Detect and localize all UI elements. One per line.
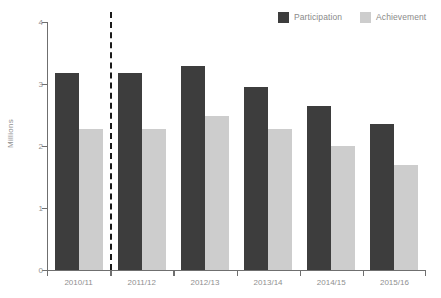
bar-participation-2012-13 <box>181 66 205 270</box>
x-tick-label-2015-16: 2015/16 <box>380 278 409 287</box>
bar-participation-2013-14 <box>244 87 268 270</box>
y-axis-line <box>47 22 48 270</box>
x-tick-mark <box>425 270 426 276</box>
x-tick-mark <box>47 270 48 276</box>
bar-achievement-2015-16 <box>394 165 418 270</box>
y-axis-title: Millions <box>6 119 15 148</box>
x-tick-mark <box>300 270 301 276</box>
bar-participation-2014-15 <box>307 106 331 270</box>
x-tick-label-2010-11: 2010/11 <box>64 278 92 287</box>
bar-participation-2010-11 <box>55 73 79 270</box>
y-tick-label: 4 <box>39 18 43 27</box>
y-tick-label: 0 <box>39 266 43 275</box>
bar-achievement-2014-15 <box>331 146 355 270</box>
bar-participation-2011-12 <box>118 73 142 270</box>
plot-area: 01234 2010/112011/122012/132013/142014/1… <box>47 22 426 270</box>
bar-achievement-2010-11 <box>79 129 103 270</box>
x-tick-label-2014-15: 2014/15 <box>317 278 346 287</box>
bar-achievement-2013-14 <box>268 129 292 270</box>
y-tick-label: 2 <box>39 142 43 151</box>
bar-achievement-2012-13 <box>205 116 229 270</box>
x-tick-mark <box>237 270 238 276</box>
x-tick-mark <box>110 270 111 276</box>
x-tick-mark <box>173 270 174 276</box>
x-tick-label-2011-12: 2011/12 <box>128 278 156 287</box>
bar-achievement-2011-12 <box>142 129 166 270</box>
bar-participation-2015-16 <box>370 124 394 270</box>
x-tick-label-2013-14: 2013/14 <box>254 278 283 287</box>
y-tick-label: 1 <box>39 204 43 213</box>
x-tick-label-2012-13: 2012/13 <box>190 278 219 287</box>
y-tick-label: 3 <box>39 80 43 89</box>
x-tick-mark <box>363 270 364 276</box>
dashed-divider-line <box>110 12 112 270</box>
bar-chart: Participation Achievement Millions 01234… <box>0 0 441 298</box>
